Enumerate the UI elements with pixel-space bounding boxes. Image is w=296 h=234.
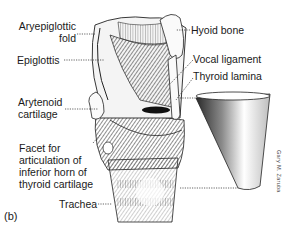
label-facet: Facet for articulation of inferior horn … <box>19 142 93 190</box>
panel-letter: (b) <box>4 210 17 222</box>
larynx-diagram: Aryepiglottic fold Epiglottis Arytenoid … <box>0 0 296 234</box>
label-hyoid-bone: Hyoid bone <box>191 24 244 36</box>
label-text: inferior horn of <box>19 166 93 178</box>
label-thyroid-lamina: Thyroid lamina <box>193 70 262 82</box>
artist-signature: Gary M. Zaruba <box>276 150 282 193</box>
label-trachea: Trachea <box>59 198 97 210</box>
label-text: cartilage <box>18 108 62 120</box>
label-text: Facet for <box>19 142 93 154</box>
label-text: Aryepiglottic <box>2 20 76 32</box>
label-vocal-ligament: Vocal ligament <box>193 53 261 65</box>
label-text: articulation of <box>19 154 93 166</box>
label-text: Arytenoid <box>18 96 62 108</box>
label-text: thyroid cartilage <box>19 178 93 190</box>
label-aryepiglottic-fold: Aryepiglottic fold <box>2 20 76 44</box>
label-epiglottis: Epiglottis <box>17 54 60 66</box>
label-text: fold <box>2 32 76 44</box>
cone-model <box>196 92 270 190</box>
label-arytenoid-cartilage: Arytenoid cartilage <box>18 96 62 120</box>
